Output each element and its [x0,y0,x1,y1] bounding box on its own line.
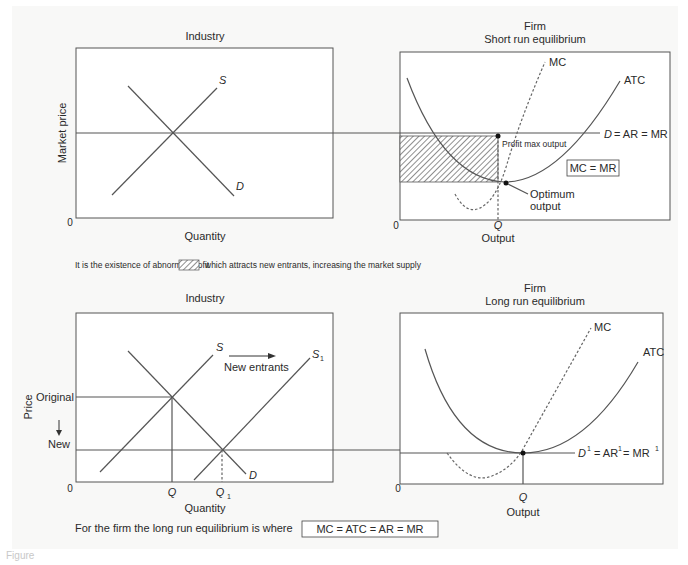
q-tick-label: Q [168,486,177,498]
firm-short-run-panel: Firm Short run equilibrium MC ATC D = AR… [393,20,670,244]
firm-long-run-panel: Firm Long run equilibrium MC ATC D 1 = A… [395,282,664,518]
ar1-label: = AR [594,447,618,459]
x-axis-label: Quantity [185,502,226,514]
equilibrium-condition: MC = ATC = AR = MR [316,523,423,535]
equilibrium-point [521,451,526,456]
panel-subtitle: Long run equilibrium [485,295,585,307]
optimum-label: Optimum [530,188,575,200]
x-axis-label: Output [481,232,514,244]
economics-diagram: Industry Market price 0 Quantity S D Fir… [0,0,688,565]
q1-subscript: 1 [227,493,231,500]
abnormal-profit-note: It is the existence of abnormal profit w… [75,260,422,270]
panel-title: Industry [185,30,225,42]
panel-title: Firm [524,20,546,32]
original-price-label: Original [36,391,74,403]
origin-label: 0 [393,220,399,231]
arrow-down-icon [56,430,62,436]
d1-label: D [578,447,586,459]
ar1-superscript: 1 [618,445,622,452]
panel-title: Industry [185,292,225,304]
supply-label: S [219,74,227,86]
abnormal-profit-area [400,136,498,182]
note-text-after: which attracts new entrants, increasing … [204,260,422,270]
origin-label: 0 [67,483,73,494]
x-axis-label: Output [506,506,539,518]
note-text: For the firm the long run equilibrium is… [75,522,293,534]
supply-s1-label: S [312,348,320,360]
panel-title: Firm [524,282,546,294]
ar-mr-label: = AR = MR [614,128,668,140]
y-axis-label: Price [22,394,34,419]
demand-label: D [236,180,244,192]
q1-tick-label: Q [216,486,225,498]
mc-mr-label: MC = MR [570,162,617,174]
hatched-box-icon [179,260,199,270]
supply-s1-subscript: 1 [320,355,324,362]
profit-max-point [496,134,501,139]
y-axis-label: Market price [56,103,68,164]
x-axis-label: Quantity [185,230,226,242]
optimum-output-label: output [530,200,561,212]
mr1-label: = MR [623,447,650,459]
q-tick-label: Q [494,219,503,231]
q-tick-label: Q [519,491,528,503]
figure-caption-strip [0,549,688,565]
figure-caption: Figure [6,550,34,561]
supply-s-label: S [216,341,224,353]
industry-short-run-panel: Industry Market price 0 Quantity S D [56,30,333,242]
new-entrants-label: New entrants [224,361,289,373]
origin-label: 0 [67,217,73,228]
atc-label: ATC [643,346,664,358]
profit-max-label: Profit max output [502,139,567,149]
atc-label: ATC [624,74,645,86]
new-price-label: New [48,438,70,450]
industry-long-run-panel: Industry Price Original New S S 1 D New … [22,292,400,514]
optimum-point [504,181,509,186]
panel-subtitle: Short run equilibrium [484,33,586,45]
mc-label: MC [549,56,566,68]
origin-label: 0 [395,483,401,494]
long-run-note: For the firm the long run equilibrium is… [75,521,438,537]
demand-label: D [249,469,257,481]
mr1-superscript: 1 [655,445,659,452]
d1-superscript: 1 [587,445,591,452]
demand-d-label: D [604,128,612,140]
mc-label: MC [594,321,611,333]
